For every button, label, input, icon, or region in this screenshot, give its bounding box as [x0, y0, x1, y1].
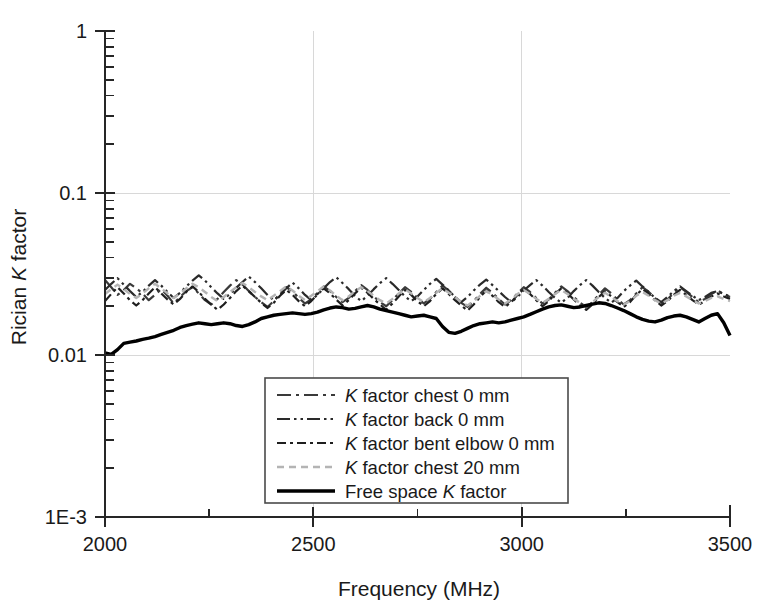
x-tick-label: 2500 [291, 533, 336, 555]
x-tick-label: 2000 [83, 533, 128, 555]
legend-label-4: Free space K factor [345, 481, 506, 502]
legend-label-2: K factor bent elbow 0 mm [345, 433, 555, 454]
chart-figure: 10.10.011E-32000250030003500 K factor ch… [0, 0, 764, 610]
legend-label-0: K factor chest 0 mm [345, 385, 510, 406]
x-axis-title: Frequency (MHz) [338, 577, 500, 600]
legend-label-1: K factor back 0 mm [345, 409, 504, 430]
x-tick-label: 3000 [499, 533, 544, 555]
x-tick-label: 3500 [708, 533, 753, 555]
legend-label-3: K factor chest 20 mm [345, 457, 520, 478]
y-tick-label: 0.01 [48, 344, 87, 366]
y-tick-label: 1 [76, 20, 87, 42]
chart-legend[interactable]: K factor chest 0 mmK factor back 0 mmK f… [265, 378, 568, 503]
y-tick-label: 0.1 [59, 182, 87, 204]
chart-canvas: 10.10.011E-32000250030003500 K factor ch… [0, 0, 764, 610]
y-axis-title: Rician K factor [7, 209, 30, 346]
y-tick-label: 1E-3 [45, 506, 87, 528]
